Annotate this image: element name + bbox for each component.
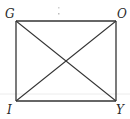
rectangle-diagram: G O I Y — [0, 0, 130, 119]
artifact-dot — [58, 7, 60, 9]
vertex-label-I: I — [7, 104, 12, 116]
diagram-canvas — [0, 0, 130, 119]
artifact-dot — [58, 13, 60, 15]
vertex-label-G: G — [5, 8, 15, 20]
vertex-label-Y: Y — [116, 104, 124, 116]
vertex-label-O: O — [117, 8, 127, 20]
